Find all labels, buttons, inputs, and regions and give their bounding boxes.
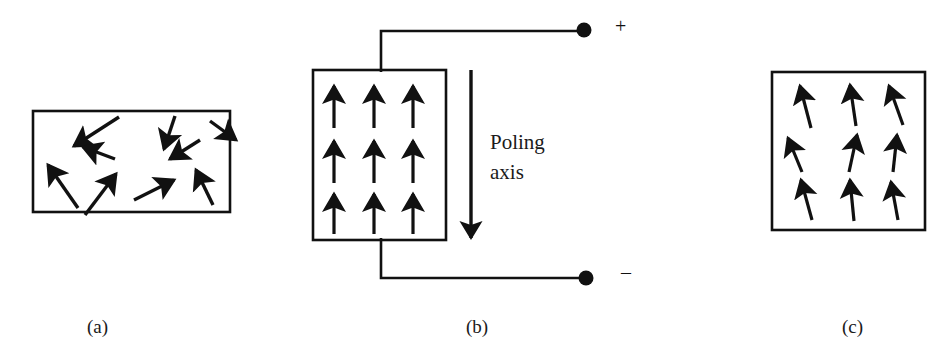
negative-wire xyxy=(381,238,580,278)
poling-figure: + – Poling axis (a) (b) (c) xyxy=(0,0,952,362)
positive-terminal-label: + xyxy=(615,15,626,38)
domain-arrow xyxy=(850,180,854,221)
panel-c-domain-arrows xyxy=(788,85,903,221)
panel-a-group xyxy=(33,111,236,215)
negative-terminal-label: – xyxy=(621,261,631,284)
panel-a-domain-arrows xyxy=(48,116,236,215)
figure-vector-canvas xyxy=(0,0,952,362)
domain-arrow xyxy=(891,182,898,220)
caption-c: (c) xyxy=(842,316,863,338)
domain-arrow xyxy=(170,140,200,159)
poling-axis-label-line2: axis xyxy=(490,157,545,187)
domain-arrow xyxy=(800,86,811,128)
domain-arrow xyxy=(134,180,174,200)
negative-terminal-dot xyxy=(579,271,594,286)
positive-wire xyxy=(381,31,578,72)
caption-b: (b) xyxy=(466,316,488,338)
panel-a-box xyxy=(33,111,230,212)
domain-arrow xyxy=(83,147,115,159)
positive-terminal-dot xyxy=(577,23,592,38)
domain-arrow xyxy=(893,135,897,172)
panel-b-domain-arrows xyxy=(334,86,413,234)
poling-axis-label: Poling axis xyxy=(490,127,545,187)
domain-arrow xyxy=(788,138,802,172)
domain-arrow xyxy=(849,135,857,172)
domain-arrow xyxy=(889,86,903,125)
poling-axis-label-line1: Poling xyxy=(490,127,545,157)
panel-b-group xyxy=(313,23,594,286)
domain-arrow xyxy=(48,165,78,208)
panel-c-group xyxy=(772,72,925,230)
domain-arrow xyxy=(850,85,856,126)
domain-arrow xyxy=(801,180,812,220)
domain-arrow xyxy=(196,170,213,205)
domain-arrow xyxy=(210,121,236,140)
domain-arrow xyxy=(164,116,175,149)
domain-arrow xyxy=(85,174,116,215)
caption-a: (a) xyxy=(87,316,108,338)
domain-arrow xyxy=(74,117,119,146)
